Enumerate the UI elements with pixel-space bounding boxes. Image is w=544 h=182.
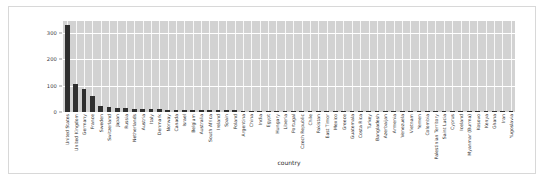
x-axis-tick-label: Cyprus	[450, 114, 455, 130]
bar-slot	[197, 21, 205, 112]
x-axis-tick-label: China	[249, 114, 254, 127]
bar-slot	[373, 21, 381, 112]
x-axis-tick-label: India	[257, 114, 262, 125]
x-axis-tick-label: Poland	[232, 114, 237, 129]
x-axis-tick: Ireland	[214, 112, 222, 158]
x-axis-tick-label: Australia	[199, 114, 204, 134]
x-axis-tick: Bangladesh	[373, 112, 381, 158]
y-axis: 0100200300	[9, 21, 63, 112]
x-axis-tick: South Africa	[205, 112, 213, 158]
x-axis-tick-label: Iceland	[458, 114, 463, 131]
bar-slot	[415, 21, 423, 112]
x-axis-tick: Israel	[180, 112, 188, 158]
y-axis-tick-mark	[59, 32, 62, 33]
x-axis-tick: Greece	[339, 112, 347, 158]
x-axis-tick: Norway	[164, 112, 172, 158]
bar-slot	[130, 21, 138, 112]
x-axis-tick-label: Hungary	[274, 114, 279, 134]
x-axis-tick-label: Norway	[165, 114, 170, 131]
x-axis-tick: East Timor	[323, 112, 331, 158]
bar	[73, 84, 78, 112]
bar-slot	[398, 21, 406, 112]
bar-slot	[231, 21, 239, 112]
bar-slot	[482, 21, 490, 112]
x-axis-tick-label: Ghana	[492, 114, 497, 129]
bar-slot	[440, 21, 448, 112]
bar-slot	[281, 21, 289, 112]
x-axis-tick: Armenia	[390, 112, 398, 158]
x-axis-tick-label: Japan	[115, 114, 120, 127]
bar-slot	[423, 21, 431, 112]
x-axis-tick: Egypt	[264, 112, 272, 158]
y-axis-tick-mark	[59, 59, 62, 60]
x-axis-tick: Netherlands	[130, 112, 138, 158]
x-axis-tick: Vietnam	[406, 112, 414, 158]
x-axis-tick: Azerbaijan	[381, 112, 389, 158]
bar	[82, 89, 87, 112]
bar-slot	[432, 21, 440, 112]
x-axis-tick: Australia	[197, 112, 205, 158]
bar	[65, 25, 70, 112]
bar-slot	[507, 21, 515, 112]
x-axis-tick-label: France	[90, 114, 95, 129]
x-axis-tick: Canada	[172, 112, 180, 158]
x-axis-tick-label: Guatemala	[349, 114, 354, 139]
x-axis-tick: Turkey	[365, 112, 373, 158]
x-axis-tick: China	[247, 112, 255, 158]
x-axis-tick-label: Kenya	[483, 114, 488, 128]
x-axis-tick: United States	[63, 112, 71, 158]
bar-slot	[490, 21, 498, 112]
bar-slot	[71, 21, 79, 112]
x-axis-tick: India	[256, 112, 264, 158]
x-axis-tick-label: Bangladesh	[375, 114, 380, 141]
bar-slot	[298, 21, 306, 112]
x-axis-tick: Kenya	[482, 112, 490, 158]
x-axis-tick: Ghana	[490, 112, 498, 158]
bar-slot	[465, 21, 473, 112]
x-axis-tick: Switzerland	[105, 112, 113, 158]
bar-slot	[63, 21, 71, 112]
y-axis-tick-label: 100	[47, 83, 57, 89]
bar-slot	[205, 21, 213, 112]
x-axis-tick-label: Israel	[182, 114, 187, 127]
x-axis-tick-label: Argentina	[241, 114, 246, 136]
x-axis-tick: Portugal	[289, 112, 297, 158]
x-axis-tick-label: Myanmar (Burma)	[467, 114, 472, 156]
x-axis-tick: Austria	[138, 112, 146, 158]
x-axis-tick: Kosovo	[473, 112, 481, 158]
x-axis-tick-label: Colombia	[425, 114, 430, 136]
x-axis-tick-label: Yugoslavia	[509, 114, 514, 138]
x-axis-tick-label: Costa Rica	[358, 114, 363, 138]
x-axis-tick: Germany	[80, 112, 88, 158]
bar-slot	[457, 21, 465, 112]
x-axis-tick-label: Switzerland	[107, 114, 112, 141]
x-axis-tick-label: Palestinian Territory	[433, 114, 438, 159]
bar-slot	[272, 21, 280, 112]
x-axis-tick-label: East Timor	[324, 114, 329, 139]
y-axis-tick-mark	[59, 112, 62, 113]
x-axis-tick: Czech Republic	[298, 112, 306, 158]
bar-slot	[264, 21, 272, 112]
bar-slot	[381, 21, 389, 112]
x-axis-tick: Palestinian Territory	[432, 112, 440, 158]
x-axis-tick-label: Mexico	[333, 114, 338, 130]
x-axis-tick: Spain	[222, 112, 230, 158]
x-axis-tick-label: Spain	[224, 114, 229, 127]
x-axis-tick: Sweden	[97, 112, 105, 158]
x-axis-tick-label: Italy	[148, 114, 153, 124]
bar-slot	[105, 21, 113, 112]
x-axis-tick: Japan	[113, 112, 121, 158]
x-axis-tick: Belgium	[189, 112, 197, 158]
x-axis-tick: Iran	[499, 112, 507, 158]
x-axis-tick-label: Liberia	[282, 114, 287, 130]
bar-slot	[348, 21, 356, 112]
bar-slot	[331, 21, 339, 112]
bar-slot	[448, 21, 456, 112]
x-axis-tick-label: Kosovo	[475, 114, 480, 130]
bar-slot	[406, 21, 414, 112]
y-axis-tick-label: 200	[47, 56, 57, 62]
y-axis-tick-label: 0	[54, 109, 57, 115]
bar-slot	[339, 21, 347, 112]
x-axis-tick: Italy	[147, 112, 155, 158]
x-axis-tick-label: Yemen	[416, 114, 421, 129]
